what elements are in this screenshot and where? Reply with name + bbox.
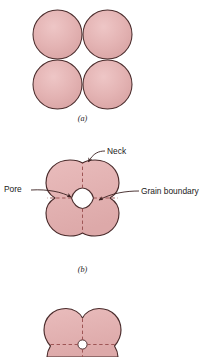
pore-label: Pore <box>4 184 22 194</box>
panel-a-label: (a) <box>78 114 88 123</box>
particle-a-top-right <box>83 10 132 59</box>
particle-a-bottom-right <box>83 60 132 109</box>
panel-b-group: Neck Pore Grain boundary (b) <box>4 146 200 274</box>
panel-b-label: (b) <box>78 265 88 274</box>
particle-a-top-left <box>33 10 82 59</box>
panel-a-group: (a) <box>33 10 132 123</box>
sintering-figure: (a) Neck Pore Grain boundary (b) <box>0 0 217 357</box>
pore-shape-c <box>78 340 87 349</box>
figure-canvas: (a) Neck Pore Grain boundary (b) <box>0 0 217 357</box>
particle-a-bottom-left <box>33 60 82 109</box>
panel-c-group <box>44 309 121 357</box>
neck-label: Neck <box>107 146 127 156</box>
grain-boundary-label: Grain boundary <box>141 186 200 196</box>
